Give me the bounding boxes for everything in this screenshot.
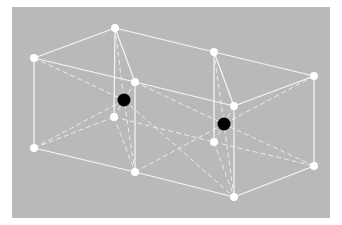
lattice-edge bbox=[114, 28, 115, 117]
body-diagonal bbox=[224, 76, 314, 124]
corner-atom bbox=[30, 144, 38, 152]
corner-atom bbox=[30, 54, 38, 62]
corner-atom bbox=[310, 72, 318, 80]
hidden-edges-and-diagonals bbox=[34, 28, 314, 197]
lattice-edge bbox=[115, 28, 214, 52]
corner-atom bbox=[230, 193, 238, 201]
body-diagonal bbox=[214, 52, 224, 124]
lattice-edge bbox=[234, 76, 314, 106]
body-diagonal bbox=[135, 124, 224, 172]
lattice-edge bbox=[34, 148, 135, 172]
body-diagonal bbox=[224, 124, 234, 197]
corner-atom bbox=[131, 78, 139, 86]
hidden-edge bbox=[34, 117, 114, 148]
corner-atom bbox=[210, 48, 218, 56]
lattice-edge bbox=[34, 28, 115, 58]
corner-atom bbox=[230, 102, 238, 110]
body-diagonal bbox=[34, 100, 124, 148]
crystal-lattice-diagram bbox=[0, 0, 342, 225]
lattice-edge bbox=[214, 52, 314, 76]
corner-atoms bbox=[30, 24, 318, 201]
body-diagonal bbox=[34, 58, 124, 100]
lattice-edge bbox=[135, 172, 234, 197]
hidden-edge bbox=[214, 142, 234, 197]
corner-atom bbox=[111, 24, 119, 32]
visible-edges bbox=[34, 28, 314, 197]
lattice-edge bbox=[234, 166, 314, 197]
lattice-edge bbox=[214, 52, 234, 106]
hidden-edge bbox=[114, 117, 135, 172]
body-center-atom bbox=[118, 94, 131, 107]
corner-atom bbox=[131, 168, 139, 176]
corner-atom bbox=[210, 138, 218, 146]
body-center-atom bbox=[218, 118, 231, 131]
body-diagonal bbox=[135, 82, 224, 124]
body-diagonal bbox=[224, 124, 314, 166]
corner-atom bbox=[110, 113, 118, 121]
body-diagonal bbox=[124, 100, 135, 172]
corner-atom bbox=[310, 162, 318, 170]
